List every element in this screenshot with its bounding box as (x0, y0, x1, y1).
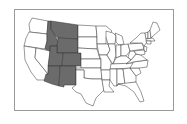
state-nebraska (78, 48, 100, 59)
state-new-mexico (59, 66, 76, 87)
us-map (0, 0, 187, 124)
state-wyoming (57, 38, 78, 53)
state-mississippi (110, 69, 117, 86)
state-michigan (115, 33, 124, 45)
state-florida (118, 82, 144, 102)
state-kansas (81, 59, 101, 68)
state-north-dakota (78, 25, 97, 37)
state-pennsylvania (128, 43, 144, 51)
state-colorado (62, 53, 81, 66)
state-wisconsin (106, 31, 116, 44)
state-washington (29, 18, 48, 34)
state-connecticut (146, 41, 151, 44)
state-maine (150, 22, 160, 38)
state-south-dakota (78, 37, 97, 49)
